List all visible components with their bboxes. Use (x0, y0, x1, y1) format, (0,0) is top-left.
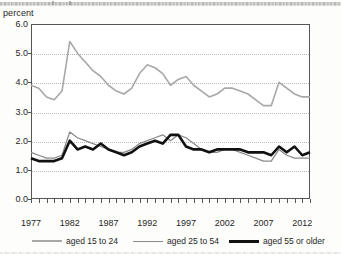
legend-label: aged 15 to 24 (66, 236, 118, 246)
x-tick-mark (47, 199, 48, 203)
y-tick-label: 1.0 (15, 165, 28, 175)
x-tick-mark (101, 199, 102, 203)
x-tick-label: 1977 (21, 218, 41, 228)
x-tick-mark (54, 199, 55, 203)
x-tick-label: 2012 (292, 218, 312, 228)
x-tick-mark (202, 199, 203, 203)
legend-swatch-icon (32, 240, 62, 242)
x-tick-mark (70, 199, 71, 203)
x-tick-mark (302, 199, 303, 203)
x-tick-mark (264, 199, 265, 203)
y-tick-label: 4.0 (15, 77, 28, 87)
y-tick-label: 0.0 (15, 194, 28, 204)
scan-noise-top-secondary (0, 5, 341, 6)
legend-item-aged-15-to-24: aged 15 to 24 (32, 236, 118, 246)
x-tick-mark (124, 199, 125, 203)
x-tick-mark (186, 199, 187, 203)
x-tick-label: 1987 (98, 218, 118, 228)
x-tick-mark (109, 199, 110, 203)
legend-item-aged-25-to-54: aged 25 to 54 (133, 236, 219, 246)
legend-label: aged 55 or older (263, 236, 325, 246)
x-tick-mark (310, 199, 311, 203)
x-tick-mark (147, 199, 148, 203)
x-tick-mark (271, 199, 272, 203)
x-tick-mark (171, 199, 172, 203)
x-tick-mark (287, 199, 288, 203)
x-tick-mark (116, 199, 117, 203)
x-tick-mark (217, 199, 218, 203)
x-tick-label: 1997 (176, 218, 196, 228)
x-tick-mark (194, 199, 195, 203)
x-tick-mark (140, 199, 141, 203)
x-tick-mark (178, 199, 179, 203)
x-tick-label: 2007 (253, 218, 273, 228)
x-tick-mark (248, 199, 249, 203)
series-line-aged-15-to-24 (31, 42, 310, 106)
x-tick-mark (39, 199, 40, 203)
scan-speck (69, 1, 71, 5)
legend-swatch-icon (229, 240, 259, 243)
y-tick-label: 5.0 (15, 48, 28, 58)
x-tick-label: 1982 (60, 218, 80, 228)
legend-swatch-icon (133, 241, 163, 242)
x-tick-mark (295, 199, 296, 203)
x-tick-mark (62, 199, 63, 203)
x-tick-mark (31, 199, 32, 203)
series-lines (31, 24, 310, 199)
series-line-aged-55-or-older (31, 135, 310, 161)
x-tick-mark (225, 199, 226, 203)
y-axis-title: percent (3, 8, 34, 18)
chart-legend: aged 15 to 24 aged 25 to 54 aged 55 or o… (0, 236, 341, 252)
x-tick-mark (163, 199, 164, 203)
x-tick-label: 2002 (215, 218, 235, 228)
y-tick-label: 3.0 (15, 107, 28, 117)
y-tick-label: 6.0 (15, 19, 28, 29)
x-tick-mark (132, 199, 133, 203)
x-tick-mark (279, 199, 280, 203)
x-tick-mark (240, 199, 241, 203)
x-tick-mark (155, 199, 156, 203)
legend-label: aged 25 to 54 (167, 236, 219, 246)
x-tick-mark (78, 199, 79, 203)
chart-figure: percent 6.0 5.0 4.0 3.0 2.0 1.0 0.0 1977… (0, 0, 341, 254)
x-tick-mark (209, 199, 210, 203)
x-tick-label: 1992 (137, 218, 157, 228)
y-tick-label: 2.0 (15, 136, 28, 146)
x-tick-mark (256, 199, 257, 203)
legend-item-aged-55-or-older: aged 55 or older (229, 236, 325, 246)
scan-speck (52, 1, 54, 5)
x-tick-mark (93, 199, 94, 203)
x-tick-mark (233, 199, 234, 203)
x-tick-mark (85, 199, 86, 203)
